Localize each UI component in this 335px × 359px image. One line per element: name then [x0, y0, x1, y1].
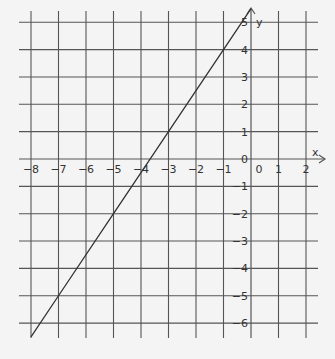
x-tick-label: −1: [215, 163, 231, 176]
y-tick-label: 3: [241, 71, 248, 84]
x-tick-label: −7: [50, 163, 66, 176]
line-graph: xy −8−7−6−5−4−3−2−1012543210−1−2−3−4−5−6: [0, 0, 335, 359]
x-tick-label: 2: [303, 163, 310, 176]
y-tick-label: −2: [232, 208, 248, 221]
y-tick-label: −5: [232, 290, 248, 303]
y-tick-label: −4: [232, 262, 248, 275]
x-tick-label: 1: [275, 163, 282, 176]
x-tick-label: −5: [105, 163, 121, 176]
y-tick-label: 2: [241, 98, 248, 111]
y-tick-label: 0: [241, 153, 248, 166]
y-tick-label: 1: [241, 126, 248, 139]
x-tick-label: 0: [256, 163, 263, 176]
tick-labels: −8−7−6−5−4−3−2−1012543210−1−2−3−4−5−6: [23, 16, 310, 330]
x-axis-label: x: [312, 146, 319, 159]
y-tick-label: −3: [232, 235, 248, 248]
x-tick-label: −2: [188, 163, 204, 176]
x-tick-label: −6: [78, 163, 94, 176]
x-tick-label: −8: [23, 163, 39, 176]
y-tick-label: −6: [232, 317, 248, 330]
y-axis-label: y: [256, 16, 263, 29]
y-tick-label: −1: [232, 180, 248, 193]
x-tick-label: −3: [160, 163, 176, 176]
y-tick-label: 4: [241, 44, 248, 57]
